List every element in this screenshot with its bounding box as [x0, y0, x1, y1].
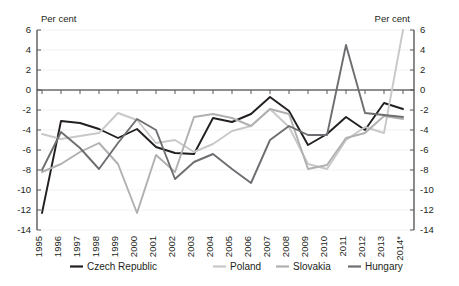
x-tick-label: 2003	[185, 236, 196, 257]
y-tick-label: -4	[23, 124, 31, 135]
y-axis-label-left: Per cent	[41, 13, 77, 24]
x-tick-label: 2006	[242, 236, 253, 257]
y-axis-label-right: Per cent	[375, 13, 411, 24]
y-tick-label: 6	[420, 24, 425, 35]
x-tick-label: 2013	[375, 236, 386, 257]
y-tick-label: -10	[420, 184, 434, 195]
x-tick-label: 2010	[318, 236, 329, 257]
y-tick-label: 2	[420, 64, 425, 75]
y-tick-label: 4	[26, 44, 31, 55]
y-tick-label: 2	[26, 64, 31, 75]
y-tick-label: -8	[420, 164, 428, 175]
y-tick-label: 6	[26, 24, 31, 35]
x-tick-label: 2014*	[394, 236, 405, 261]
x-tick-label: 2008	[280, 236, 291, 257]
x-tick-label: 1999	[109, 236, 120, 257]
x-tick-label: 2007	[261, 236, 272, 257]
series-line-hungary	[42, 45, 403, 183]
y-tick-label: -2	[420, 104, 428, 115]
legend-label-czech-republic: Czech Republic	[87, 261, 157, 272]
x-tick-label: 2011	[337, 236, 348, 256]
y-tick-label: -14	[420, 224, 434, 235]
y-tick-label: 0	[420, 84, 425, 95]
x-tick-label: 1995	[33, 236, 44, 257]
x-tick-label: 2002	[166, 236, 177, 257]
x-tick-label: 2012	[356, 236, 367, 257]
data-series-group	[42, 30, 403, 213]
y-tick-label: -6	[23, 144, 31, 155]
series-line-poland	[42, 30, 403, 169]
legend-label-hungary: Hungary	[365, 261, 403, 272]
legend-label-slovakia: Slovakia	[293, 261, 331, 272]
y-tick-label: -14	[17, 224, 31, 235]
x-tick-label: 2005	[223, 236, 234, 257]
x-tick-label: 2001	[147, 236, 158, 257]
series-line-czech-republic	[42, 97, 403, 213]
y-tick-label: 4	[420, 44, 425, 55]
y-tick-label: -12	[420, 204, 434, 215]
x-tick-label: 1997	[71, 236, 82, 257]
x-tick-label: 1998	[90, 236, 101, 257]
y-tick-label: -8	[23, 164, 31, 175]
y-axis-tick-labels-left: 6420-2-4-6-8-10-12-14	[17, 24, 31, 235]
chart-canvas: 6420-2-4-6-8-10-12-146420-2-4-6-8-10-12-…	[0, 0, 459, 286]
y-tick-label: -4	[420, 124, 428, 135]
y-tick-label: 0	[26, 84, 31, 95]
legend-label-poland: Poland	[230, 261, 261, 272]
y-tick-label: -2	[23, 104, 31, 115]
line-chart: 6420-2-4-6-8-10-12-146420-2-4-6-8-10-12-…	[0, 0, 459, 286]
x-tick-label: 2004	[204, 236, 215, 257]
gridlines	[38, 30, 413, 230]
y-tick-label: -6	[420, 144, 428, 155]
y-axis-tick-labels-right: 6420-2-4-6-8-10-12-14	[420, 24, 434, 235]
y-tick-label: -12	[17, 204, 31, 215]
x-tick-label: 1996	[52, 236, 63, 257]
x-tick-label: 2009	[299, 236, 310, 257]
x-tick-label: 2000	[128, 236, 139, 257]
legend: Czech RepublicPolandSlovakiaHungary	[70, 261, 403, 272]
x-axis-tick-labels: 1995199619971998199920002001200220032004…	[33, 236, 405, 261]
y-tick-label: -10	[17, 184, 31, 195]
